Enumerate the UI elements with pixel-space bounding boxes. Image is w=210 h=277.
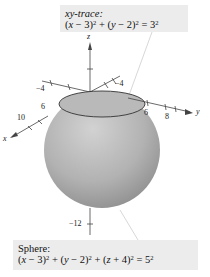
y-tick-neg4: −4 (115, 79, 124, 88)
x-tick-neg4: −4 (36, 84, 45, 93)
y-tick-8: 8 (165, 112, 169, 121)
diagram-svg (0, 0, 210, 277)
z-axis-label: z (87, 32, 90, 41)
xy-trace-ellipse (59, 91, 145, 117)
sphere-callout: Sphere: (x − 3)2 + (y − 2)2 + (z + 4)2 =… (13, 240, 198, 270)
x-tick-6: 6 (41, 102, 45, 111)
x-tick-10: 10 (17, 113, 25, 122)
sphere-equation: (x − 3)2 + (y − 2)2 + (z + 4)2 = 52 (18, 254, 193, 265)
trace-equation: (x − 3)2 + (y − 2)2 = 32 (65, 19, 183, 30)
trace-leader-line (128, 32, 152, 98)
z-arrow-icon (88, 42, 92, 50)
y-axis-label: y (196, 107, 200, 116)
sphere-diagram: z y x −4 6 10 −4 6 8 −12 xy-trace: (x − … (0, 0, 210, 277)
y-arrow-icon (185, 109, 193, 115)
y-tick-6: 6 (144, 108, 148, 117)
sphere-title: Sphere: (18, 243, 193, 254)
x-arrow-icon (10, 132, 18, 138)
sphere-leader-line (120, 210, 138, 240)
xy-trace-callout: xy-trace: (x − 3)2 + (y − 2)2 = 32 (60, 5, 188, 32)
x-axis-label: x (3, 134, 7, 143)
trace-title: xy-trace: (65, 8, 103, 19)
z-tick-neg12: −12 (69, 219, 82, 228)
x-axis-back (42, 81, 90, 92)
